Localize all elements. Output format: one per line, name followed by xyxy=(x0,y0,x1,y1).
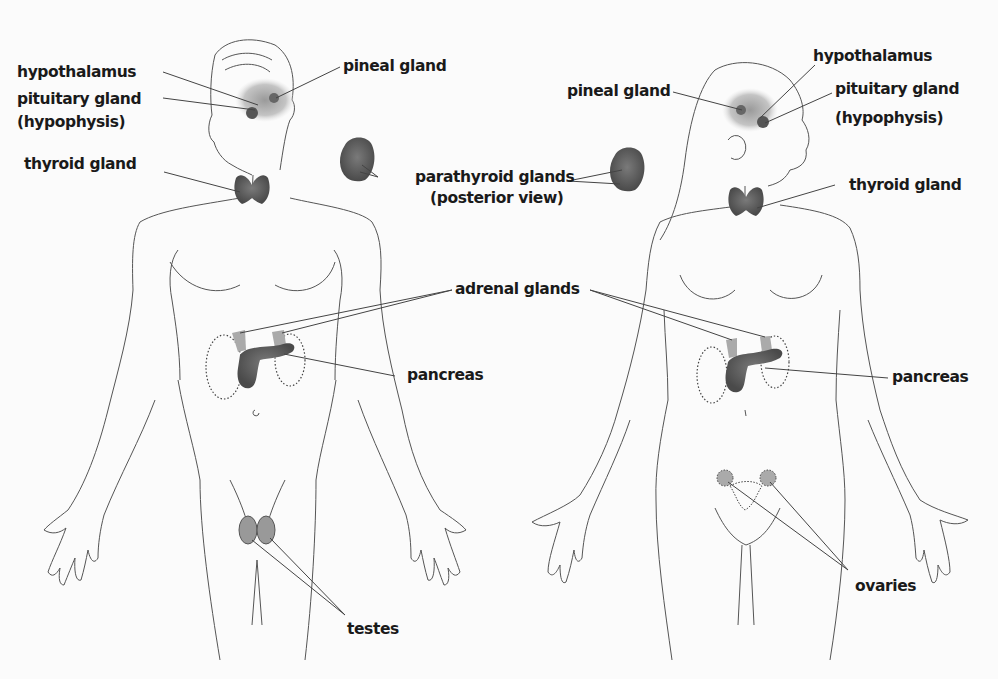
female-label-pituitary: pituitary gland xyxy=(835,80,959,99)
female-thyroid-icon xyxy=(728,187,763,216)
adrenal-label: adrenal glands xyxy=(455,280,580,299)
female-label-ovaries: ovaries xyxy=(855,577,916,596)
parathyroid-label: parathyroid glands xyxy=(415,168,574,187)
female-label-pituitary-alt: (hypophysis) xyxy=(835,109,943,128)
endocrine-figure xyxy=(0,0,998,679)
male-label-testes: testes xyxy=(347,620,399,639)
female-brain xyxy=(722,88,778,132)
parathyroid-gland-posterior-icon xyxy=(610,148,644,192)
male-adrenal-left-icon xyxy=(232,330,246,352)
male-label-pineal: pineal gland xyxy=(343,57,446,76)
male-label-pituitary: pituitary gland xyxy=(17,90,141,109)
male-thyroid-icon xyxy=(234,175,269,204)
female-kidney-left xyxy=(697,347,727,403)
female-label-hypothalamus: hypothalamus xyxy=(813,47,932,66)
female-ovary-right-icon xyxy=(760,470,776,486)
male-label-hypothalamus: hypothalamus xyxy=(17,63,136,82)
parathyroid-sublabel: (posterior view) xyxy=(430,189,564,208)
male-pancreas-icon xyxy=(238,343,295,388)
female-label-pancreas: pancreas xyxy=(892,368,968,387)
female-label-pineal: pineal gland xyxy=(567,82,670,101)
female-label-thyroid: thyroid gland xyxy=(849,176,961,195)
male-testis-left-icon xyxy=(239,516,257,544)
male-pineal-icon xyxy=(269,93,279,103)
male-label-pituitary-alt: (hypophysis) xyxy=(17,113,125,132)
female-adrenal-left-icon xyxy=(726,338,737,358)
male-label-thyroid: thyroid gland xyxy=(24,155,136,174)
male-label-pancreas: pancreas xyxy=(407,366,483,385)
